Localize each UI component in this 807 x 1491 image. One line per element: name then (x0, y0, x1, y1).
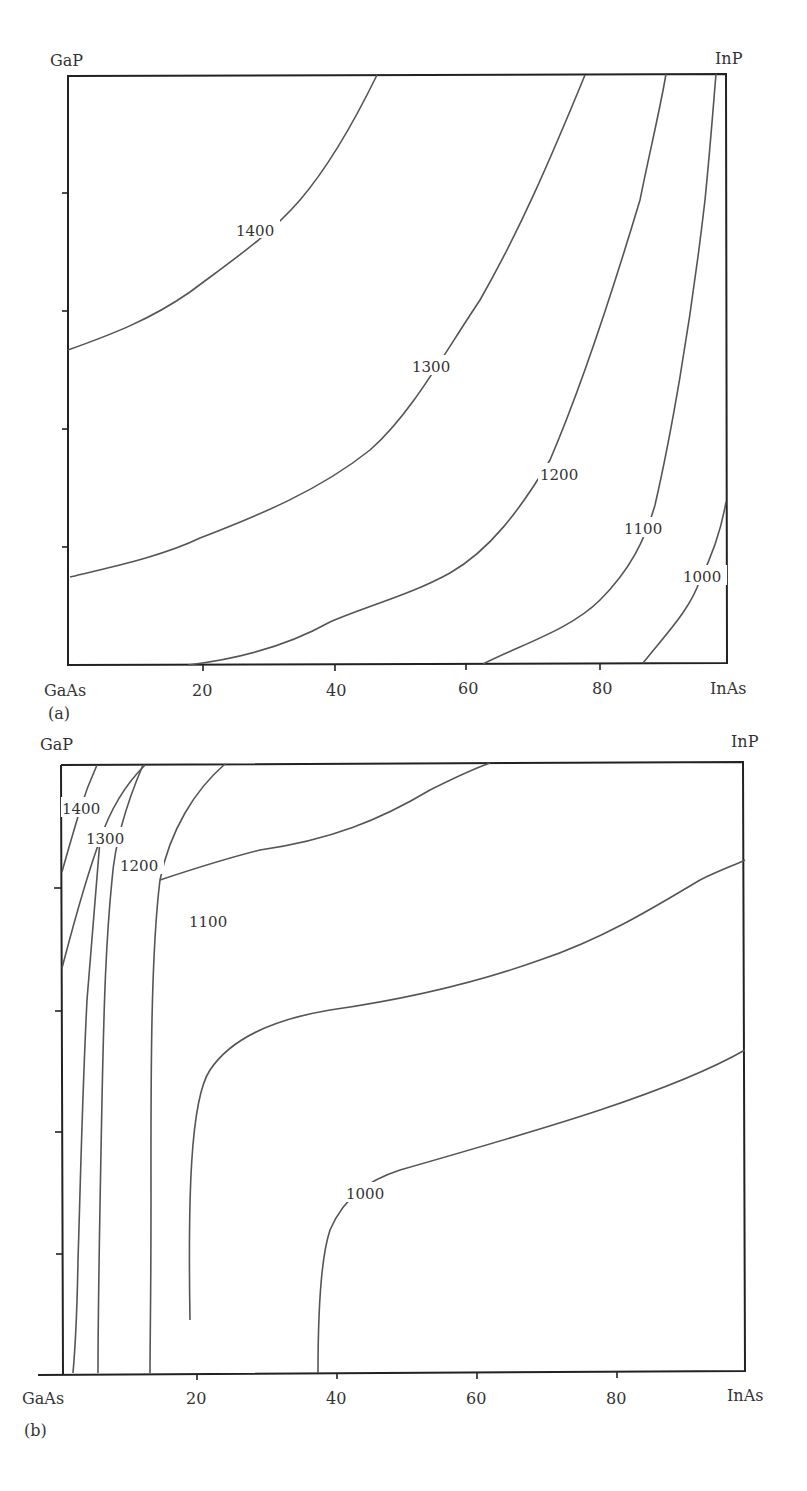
x-tick-label-80: 80 (592, 679, 612, 698)
contour-1300 (70, 75, 585, 577)
panel-label-b: (b) (24, 1421, 47, 1440)
contour-label-1100: 1100 (189, 913, 227, 931)
corner-label-inp: InP (715, 49, 743, 68)
contour-label-1200: 1200 (120, 857, 158, 875)
corner-label-inas: InAs (727, 1386, 763, 1405)
x-tick-label-60: 60 (466, 1389, 486, 1408)
x-tick-label-40: 40 (326, 1389, 346, 1408)
plot-frame (68, 74, 727, 665)
contour-label-1400: 1400 (236, 222, 274, 240)
corner-label-gaas: GaAs (22, 1389, 64, 1408)
contour-label-1000: 1000 (683, 568, 721, 586)
x-tick-label-80: 80 (606, 1389, 626, 1408)
corner-label-gaas: GaAs (44, 681, 86, 700)
corner-label-inas: InAs (710, 679, 746, 698)
contour-label-1400: 1400 (62, 800, 100, 818)
corner-label-gap: GaP (50, 51, 83, 70)
contour-label-1300: 1300 (86, 830, 124, 848)
chart-panel-a: GaP InP GaAs InAs (a) 20 40 60 80 (44, 49, 746, 723)
chart-panel-b: GaP InP GaAs InAs (b) 20 40 60 80 (22, 732, 763, 1440)
contour-1400 (68, 75, 377, 350)
contour-1000 (318, 1050, 745, 1373)
contour-unlabeled (189, 860, 745, 1320)
x-tick-label-20: 20 (192, 681, 212, 700)
x-tick-label-40: 40 (326, 681, 346, 700)
figure-canvas: GaP InP GaAs InAs (a) 20 40 60 80 (0, 0, 807, 1491)
plot-frame (38, 762, 745, 1375)
contour-label-1100: 1100 (624, 520, 662, 538)
corner-label-gap: GaP (40, 735, 73, 754)
corner-label-inp: InP (731, 732, 759, 751)
contour-1400 (62, 765, 97, 872)
panel-label-a: (a) (48, 704, 70, 723)
x-tick-label-60: 60 (458, 679, 478, 698)
x-tick-label-20: 20 (186, 1389, 206, 1408)
contour-label-1000: 1000 (346, 1185, 384, 1203)
contour-1100-tail (160, 763, 490, 880)
contour-label-1300: 1300 (412, 358, 450, 376)
contour-label-1200: 1200 (540, 466, 578, 484)
